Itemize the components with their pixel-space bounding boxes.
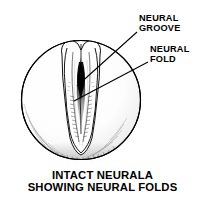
callout-label-neural-fold: NEURAL FOLD (150, 44, 189, 64)
figure-caption: INTACT NEURALA SHOWING NEURAL FOLDS (0, 169, 205, 194)
caption-line-1: INTACT NEURALA (0, 169, 205, 181)
callout-label-neural-groove: NEURAL GROOVE (139, 13, 181, 33)
callout-neural-fold-line2: FOLD (150, 54, 189, 64)
callout-neural-fold-line1: NEURAL (150, 44, 189, 54)
embryo-sphere (22, 40, 141, 174)
caption-line-2: SHOWING NEURAL FOLDS (0, 181, 205, 193)
figure-panel: NEURAL GROOVE NEURAL FOLD INTACT NEURALA… (0, 0, 205, 200)
callout-neural-groove-line2: GROOVE (139, 23, 181, 33)
callout-neural-groove-line1: NEURAL (139, 13, 178, 23)
